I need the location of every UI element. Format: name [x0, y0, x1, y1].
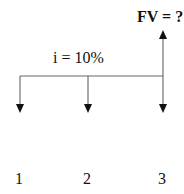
period-label-2: 2 — [83, 171, 91, 187]
cash-flow-diagram — [0, 0, 184, 194]
period-label-3: 3 — [158, 171, 166, 187]
period-1-outflow-arrow-icon — [16, 76, 24, 113]
future-value-label: FV = ? — [137, 9, 183, 25]
period-label-1: 1 — [15, 171, 23, 187]
period-2-outflow-arrow-icon — [84, 76, 92, 113]
future-value-arrow-icon — [159, 30, 167, 76]
period-3-outflow-arrow-icon — [159, 76, 167, 113]
interest-rate-label: i = 10% — [53, 50, 104, 66]
